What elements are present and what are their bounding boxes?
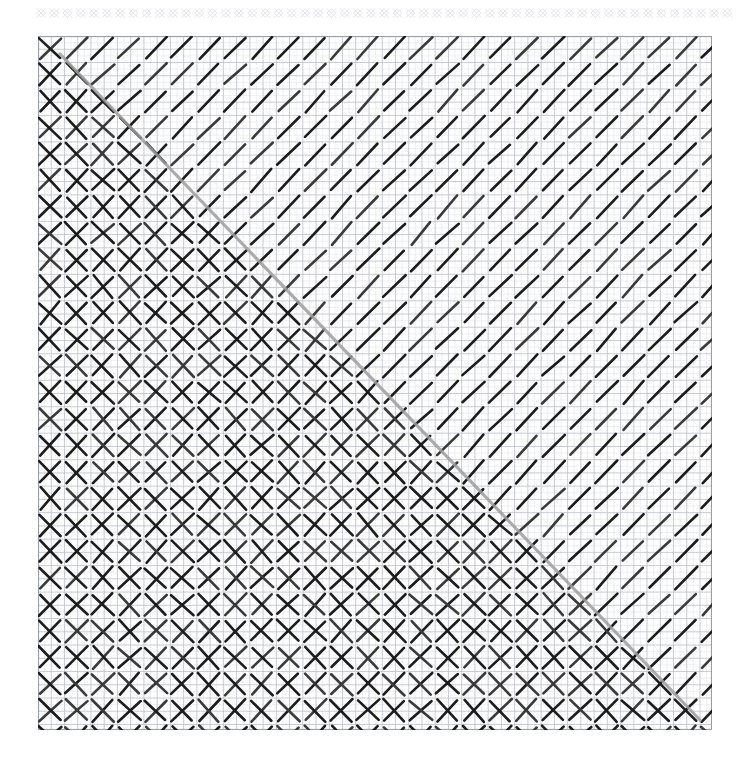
stroke <box>411 250 432 271</box>
stroke <box>516 461 536 484</box>
stroke <box>595 541 616 562</box>
stroke <box>462 382 484 402</box>
stroke <box>702 408 712 428</box>
stroke <box>677 37 697 58</box>
stroke <box>66 38 87 59</box>
stroke <box>569 541 591 561</box>
stroke <box>251 169 271 192</box>
stroke <box>597 381 618 402</box>
stroke <box>357 328 379 350</box>
stroke <box>332 222 351 245</box>
stroke <box>490 303 511 324</box>
stroke <box>543 408 564 429</box>
graph-paper-panel <box>38 36 712 730</box>
stroke <box>649 276 670 296</box>
stroke <box>650 224 669 242</box>
stroke <box>464 460 484 483</box>
stroke <box>650 567 670 587</box>
stroke <box>224 65 246 84</box>
stroke <box>438 249 458 270</box>
stroke <box>516 328 538 349</box>
stroke <box>40 383 61 404</box>
worksheet-page <box>0 0 745 769</box>
stroke <box>518 489 537 509</box>
stroke <box>198 170 219 192</box>
stroke <box>648 620 670 642</box>
stroke <box>595 64 617 84</box>
stroke <box>649 65 670 84</box>
stroke <box>649 595 670 614</box>
stroke <box>701 65 712 85</box>
stroke <box>675 197 696 217</box>
stroke <box>544 118 563 139</box>
stroke <box>385 382 405 403</box>
stroke <box>702 356 712 376</box>
stroke <box>624 408 643 430</box>
stroke <box>331 37 351 59</box>
stroke <box>305 169 326 190</box>
stroke <box>648 541 670 561</box>
stroke <box>330 251 351 270</box>
stroke <box>409 90 430 110</box>
diamond-motif-group <box>37 9 732 18</box>
stroke <box>172 92 192 111</box>
stroke <box>570 90 591 110</box>
stroke <box>225 171 245 189</box>
stroke <box>517 436 536 457</box>
stroke <box>675 488 695 509</box>
stroke <box>437 355 458 376</box>
stroke <box>518 143 537 164</box>
stroke <box>278 196 299 218</box>
stroke <box>304 222 326 245</box>
stroke <box>650 409 671 429</box>
stroke <box>569 64 591 86</box>
stroke <box>570 381 590 403</box>
stroke <box>198 64 218 84</box>
stroke <box>570 143 591 163</box>
stroke <box>571 409 591 428</box>
stroke <box>438 145 459 163</box>
stroke <box>251 250 272 270</box>
stroke <box>569 277 590 297</box>
stroke <box>145 63 166 84</box>
stroke <box>676 462 696 482</box>
stroke <box>676 170 697 191</box>
stroke <box>489 409 511 430</box>
stroke <box>438 302 459 322</box>
stroke <box>225 38 246 58</box>
stroke <box>544 514 563 536</box>
stroke <box>518 383 537 403</box>
stroke <box>251 64 272 84</box>
stroke <box>702 568 712 589</box>
stroke <box>649 461 670 482</box>
stroke <box>252 118 271 139</box>
stroke <box>357 249 379 270</box>
stroke <box>436 276 457 297</box>
stroke <box>198 142 220 164</box>
stroke <box>517 408 538 430</box>
stroke <box>516 223 538 243</box>
stroke <box>596 223 617 245</box>
pen-hatching-drawing <box>38 36 712 730</box>
stroke <box>331 170 351 190</box>
stroke <box>279 91 300 111</box>
stroke <box>542 382 564 403</box>
stroke <box>304 461 324 482</box>
stroke <box>624 514 644 535</box>
stroke <box>676 65 696 86</box>
stroke <box>675 408 697 429</box>
stroke <box>225 197 247 217</box>
stroke <box>304 277 326 297</box>
stroke <box>436 37 457 58</box>
stroke <box>332 276 353 297</box>
stroke <box>703 169 712 191</box>
stroke <box>624 355 645 376</box>
stroke <box>278 117 299 138</box>
stroke <box>410 356 432 376</box>
stroke <box>597 116 618 137</box>
stroke <box>622 249 644 270</box>
stroke <box>383 224 405 244</box>
stroke <box>436 328 458 348</box>
stroke <box>570 195 590 218</box>
stroke <box>675 383 695 402</box>
